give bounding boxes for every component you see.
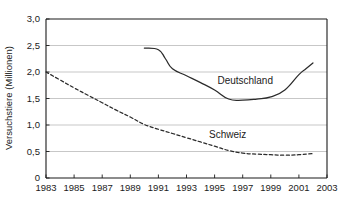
x-tick-label: 1999 — [260, 182, 281, 193]
y-tick-label: 0,5 — [27, 146, 40, 157]
x-tick-label: 1995 — [204, 182, 225, 193]
line-chart: 1983198519871989199119931995199719992001… — [0, 0, 351, 217]
series-annotation-deutschland: Deutschland — [217, 75, 273, 86]
x-tick-label: 1987 — [92, 182, 113, 193]
x-tick-label: 1997 — [232, 182, 253, 193]
chart-container: 1983198519871989199119931995199719992001… — [0, 0, 351, 217]
y-tick-label: 1,5 — [27, 93, 40, 104]
y-tick-label: 2,0 — [27, 66, 40, 77]
x-tick-label: 2001 — [288, 182, 309, 193]
x-tick-label: 2003 — [316, 182, 337, 193]
x-tick-label: 1989 — [120, 182, 141, 193]
y-tick-label: 0 — [35, 172, 40, 183]
x-axis-tick-labels: 1983198519871989199119931995199719992001… — [35, 182, 337, 193]
y-tick-label: 2,5 — [27, 40, 40, 51]
y-axis-title: Versuchstiere (Millionen) — [3, 46, 14, 150]
x-tick-label: 1993 — [176, 182, 197, 193]
x-tick-label: 1991 — [148, 182, 169, 193]
series-annotation-schweiz: Schweiz — [209, 129, 246, 140]
x-tick-label: 1983 — [35, 182, 56, 193]
x-tick-label: 1985 — [64, 182, 85, 193]
y-tick-label: 3,0 — [27, 13, 40, 24]
y-tick-label: 1,0 — [27, 119, 40, 130]
